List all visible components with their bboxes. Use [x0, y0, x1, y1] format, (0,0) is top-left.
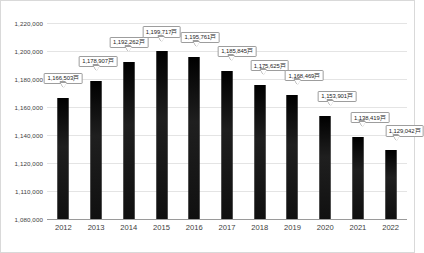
y-tick-label: 1,120,000 — [15, 160, 43, 167]
bar[interactable] — [221, 71, 232, 219]
bar-slot — [112, 23, 145, 219]
bar-slot — [243, 23, 276, 219]
x-tick-label: 2022 — [382, 223, 399, 232]
bar-slot — [342, 23, 375, 219]
bar-slot — [80, 23, 113, 219]
y-tick-label: 1,140,000 — [15, 132, 43, 139]
bars-layer — [47, 23, 407, 219]
bar-slot — [374, 23, 407, 219]
bar-slot — [145, 23, 178, 219]
y-tick-label: 1,110,000 — [15, 188, 43, 195]
bar-slot — [309, 23, 342, 219]
y-tick-label: 1,080,000 — [15, 216, 43, 223]
bar[interactable] — [189, 57, 200, 219]
y-tick-label: 1,220,000 — [15, 20, 43, 27]
x-tick-label: 2020 — [317, 223, 334, 232]
x-tick-label: 2012 — [55, 223, 72, 232]
x-tick-label: 2018 — [251, 223, 268, 232]
y-axis: 1,220,0001,200,0001,180,0001,160,0001,14… — [1, 23, 43, 219]
x-tick-label: 2019 — [284, 223, 301, 232]
x-axis: 2012201320142015201620172018201920202021… — [47, 223, 407, 239]
bar[interactable] — [352, 137, 363, 219]
bar[interactable] — [254, 85, 265, 219]
bar[interactable] — [58, 98, 69, 219]
bar[interactable] — [287, 95, 298, 219]
y-tick-label: 1,180,000 — [15, 76, 43, 83]
x-tick-label: 2017 — [219, 223, 236, 232]
bar[interactable] — [320, 116, 331, 219]
bar[interactable] — [91, 81, 102, 219]
bar-slot — [47, 23, 80, 219]
bar[interactable] — [385, 150, 396, 219]
bar[interactable] — [123, 62, 134, 219]
bar-slot — [276, 23, 309, 219]
x-axis-line — [47, 219, 407, 220]
bar-slot — [211, 23, 244, 219]
y-tick-label: 1,200,000 — [15, 48, 43, 55]
bar[interactable] — [156, 51, 167, 219]
x-tick-label: 2021 — [349, 223, 366, 232]
x-tick-label: 2014 — [120, 223, 137, 232]
x-tick-label: 2016 — [186, 223, 203, 232]
x-tick-label: 2013 — [88, 223, 105, 232]
bar-slot — [178, 23, 211, 219]
y-tick-label: 1,160,000 — [15, 104, 43, 111]
x-tick-label: 2015 — [153, 223, 170, 232]
